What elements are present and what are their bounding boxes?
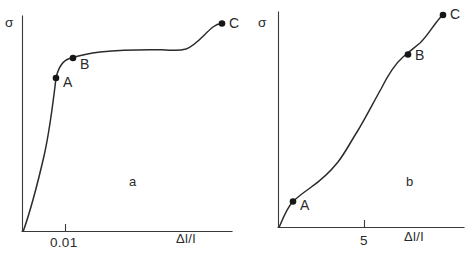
panel-a-x-axis-label: Δl/l	[176, 231, 196, 246]
stress-strain-figure: A B C σ Δl/l 0.01 a A	[0, 0, 465, 264]
panel-a-point-a-label: A	[63, 74, 73, 90]
panel-b-label: b	[406, 174, 413, 189]
panel-b-point-a-label: A	[300, 197, 310, 213]
panel-b-point-c-marker	[440, 12, 447, 19]
panel-b: A B C σ Δl/l 5 b	[258, 6, 464, 248]
panel-b-x-axis-label: Δl/l	[404, 229, 424, 244]
panel-a-x-tick-label: 0.01	[50, 235, 77, 250]
panel-a-label: a	[129, 174, 137, 189]
panel-a: A B C σ Δl/l 0.01 a	[5, 15, 239, 250]
figure-canvas: A B C σ Δl/l 0.01 a A	[0, 0, 465, 264]
panel-b-point-a-marker	[290, 198, 297, 205]
panel-a-curve	[24, 24, 222, 231]
panel-b-point-c-label: C	[450, 6, 460, 22]
panel-b-point-b-marker	[405, 51, 412, 58]
panel-a-point-c-marker	[219, 20, 226, 27]
panel-a-point-b-marker	[70, 55, 77, 62]
panel-a-point-b-label: B	[80, 56, 90, 72]
panel-b-x-tick-label: 5	[360, 233, 368, 248]
panel-b-point-b-label: B	[415, 47, 425, 63]
panel-a-point-a-marker	[53, 75, 60, 82]
panel-a-y-axis-label: σ	[5, 15, 14, 30]
panel-b-y-axis-label: σ	[258, 15, 267, 30]
panel-a-point-c-label: C	[229, 15, 239, 31]
